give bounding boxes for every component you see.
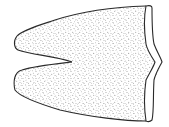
stipple-layer [14, 6, 148, 121]
stippled-illustration [0, 0, 169, 127]
bilobed-structure-drawing [0, 0, 169, 127]
